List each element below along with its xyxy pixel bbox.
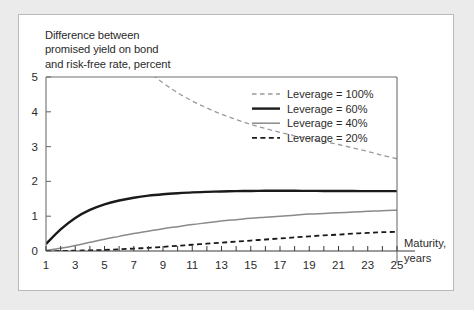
legend-label: Leverage = 40% [287,117,368,129]
legend-label: Leverage = 20% [287,132,368,144]
figure-panel: Difference between promised yield on bon… [18,14,454,291]
x-tick-label: 25 [391,259,404,271]
x-tick-label: 7 [131,259,137,271]
y-tick-label: 1 [32,210,38,222]
y-tick-label: 3 [32,141,38,153]
x-tick-label: 21 [332,259,345,271]
x-tick-label: 23 [361,259,374,271]
chart-plot: 012345 135791113151719212325 Leverage = … [19,15,453,290]
series-line [46,210,397,250]
y-tick-label: 0 [32,245,38,257]
x-tick-label: 13 [215,259,228,271]
x-tick-label: 1 [43,259,49,271]
x-axis-name-line1: Maturity, [404,237,446,249]
x-tick-label: 5 [101,259,107,271]
x-tick-label: 3 [72,259,78,271]
x-tick-label: 9 [160,259,166,271]
chart-legend: Leverage = 100%Leverage = 60%Leverage = … [252,88,374,144]
legend-label: Leverage = 100% [287,88,374,100]
series-line [46,191,397,244]
x-tick-label: 17 [274,259,287,271]
legend-label: Leverage = 60% [287,103,368,115]
y-tick-label: 5 [32,71,38,83]
y-tick-label: 4 [32,106,39,118]
x-tick-label: 19 [303,259,316,271]
y-ticks-layer: 012345 [32,71,51,257]
y-tick-label: 2 [32,175,38,187]
x-axis-name-line2: years [404,252,432,264]
x-tick-label: 15 [244,259,257,271]
x-tick-label: 11 [186,259,198,271]
chart-root: Difference between promised yield on bon… [19,15,453,290]
